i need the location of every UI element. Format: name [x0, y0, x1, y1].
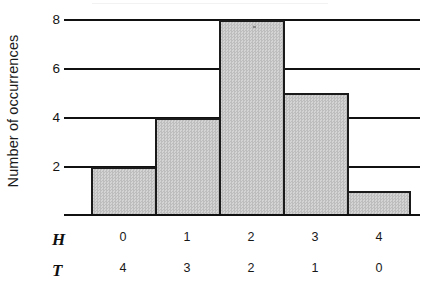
- axis-row-h-value-4: 4: [347, 230, 411, 244]
- axis-row-h: H 0 1 2 3 4: [0, 230, 424, 260]
- axis-row-h-value-1: 1: [155, 230, 219, 244]
- histogram-figure: Number of occurrences 8 6 4 2 H 0 1 2 3 …: [0, 0, 424, 282]
- scan-speck: [253, 26, 256, 28]
- bar-h1: [155, 118, 221, 216]
- axis-row-t-value-3: 1: [283, 261, 347, 275]
- axis-row-t-value-0: 4: [91, 261, 155, 275]
- axis-row-t-symbol: T: [52, 261, 78, 281]
- axis-row-t: T 4 3 2 1 0: [0, 261, 424, 282]
- plot-area: [64, 0, 424, 222]
- axis-row-t-value-4: 0: [347, 261, 411, 275]
- y-tick-label-4: 4: [34, 111, 60, 125]
- bar-h2: [219, 20, 285, 216]
- axis-row-t-value-1: 3: [155, 261, 219, 275]
- axis-label-rows: H 0 1 2 3 4 T 4 3 2 1 0: [0, 222, 424, 282]
- y-tick-label-6: 6: [34, 62, 60, 76]
- y-axis-tick-labels: 8 6 4 2: [32, 0, 60, 222]
- bar-h3: [283, 93, 349, 216]
- y-axis-title-text: Number of occurrences: [5, 35, 21, 188]
- y-tick-label-8: 8: [34, 13, 60, 27]
- y-axis-title: Number of occurrences: [0, 0, 26, 222]
- axis-row-h-symbol: H: [52, 230, 78, 250]
- x-axis-baseline: [64, 214, 420, 216]
- axis-row-h-value-3: 3: [283, 230, 347, 244]
- axis-row-t-value-2: 2: [219, 261, 283, 275]
- bar-h4: [347, 191, 411, 216]
- axis-row-h-value-0: 0: [91, 230, 155, 244]
- bar-h0: [91, 167, 157, 216]
- axis-row-h-value-2: 2: [219, 230, 283, 244]
- y-tick-label-2: 2: [34, 160, 60, 174]
